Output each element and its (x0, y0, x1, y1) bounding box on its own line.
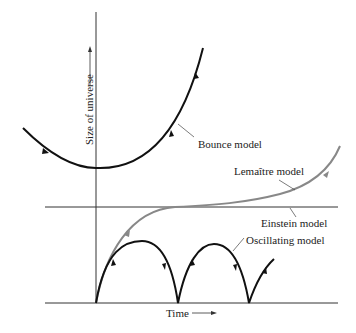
oscillating-model-label: Oscillating model (246, 235, 325, 246)
bounce-arrow-icon (169, 130, 174, 137)
bounce-model-label: Bounce model (198, 139, 262, 150)
oscillating-leader (233, 238, 244, 251)
oscillating-model-curve (96, 241, 274, 303)
time-arrow-icon (211, 311, 217, 315)
lemaitre-model-label: Lemaître model (234, 166, 304, 177)
time-axis-label: Time (166, 308, 189, 319)
lemaitre-leader (279, 180, 295, 190)
oscillating-arrow-icon (162, 263, 166, 270)
einstein-model-label: Einstein model (261, 218, 327, 229)
bounce-model-curve (23, 48, 203, 168)
size-arrow-icon (88, 46, 92, 52)
size-axis-label: Size of universe (84, 74, 95, 145)
oscillating-arrow-icon (111, 259, 116, 266)
bounce-leader (178, 124, 194, 137)
einstein-leader (290, 208, 296, 217)
lemaitre-arrow-icon (323, 171, 329, 178)
oscillating-arrow-icon (233, 264, 237, 271)
